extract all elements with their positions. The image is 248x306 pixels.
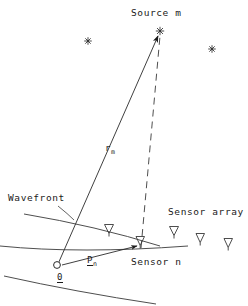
sensor-n-label: Sensor n bbox=[131, 256, 182, 267]
background-star-left-icon bbox=[85, 38, 92, 45]
star-icon-group bbox=[85, 27, 216, 52]
sensor-icon-n bbox=[136, 237, 145, 249]
source-star-icon bbox=[156, 27, 164, 35]
wavefront-arc-middle bbox=[0, 246, 188, 250]
range-vector-label: rm bbox=[105, 143, 115, 156]
origin-label: 0 bbox=[57, 272, 63, 283]
origin-marker bbox=[54, 262, 61, 269]
background-star-right-icon bbox=[209, 46, 216, 53]
source-label: Source m bbox=[131, 7, 182, 18]
position-vector-subscript: n bbox=[93, 260, 97, 268]
wavefront-arc-inner bbox=[4, 276, 156, 304]
position-vector-pn bbox=[62, 246, 137, 265]
sensor-icon-3 bbox=[170, 227, 179, 239]
sensor-icon-4 bbox=[196, 234, 205, 246]
wavefront-sensor-array-diagram: Source m Wavefront Sensor array Sensor n… bbox=[0, 0, 248, 306]
position-vector-label: Pn bbox=[87, 255, 97, 268]
origin-symbol: 0 bbox=[57, 273, 63, 283]
sensor-icon-5 bbox=[224, 239, 233, 251]
diagram-canvas bbox=[0, 0, 248, 306]
wavefront-leader-line bbox=[58, 206, 74, 220]
wavefront-label: Wavefront bbox=[8, 192, 65, 203]
range-vector-subscript: m bbox=[111, 148, 115, 156]
sensor-array-label: Sensor array bbox=[168, 206, 244, 217]
wavefront-arc-outer bbox=[24, 214, 160, 246]
sensor-array-icons bbox=[105, 225, 233, 251]
